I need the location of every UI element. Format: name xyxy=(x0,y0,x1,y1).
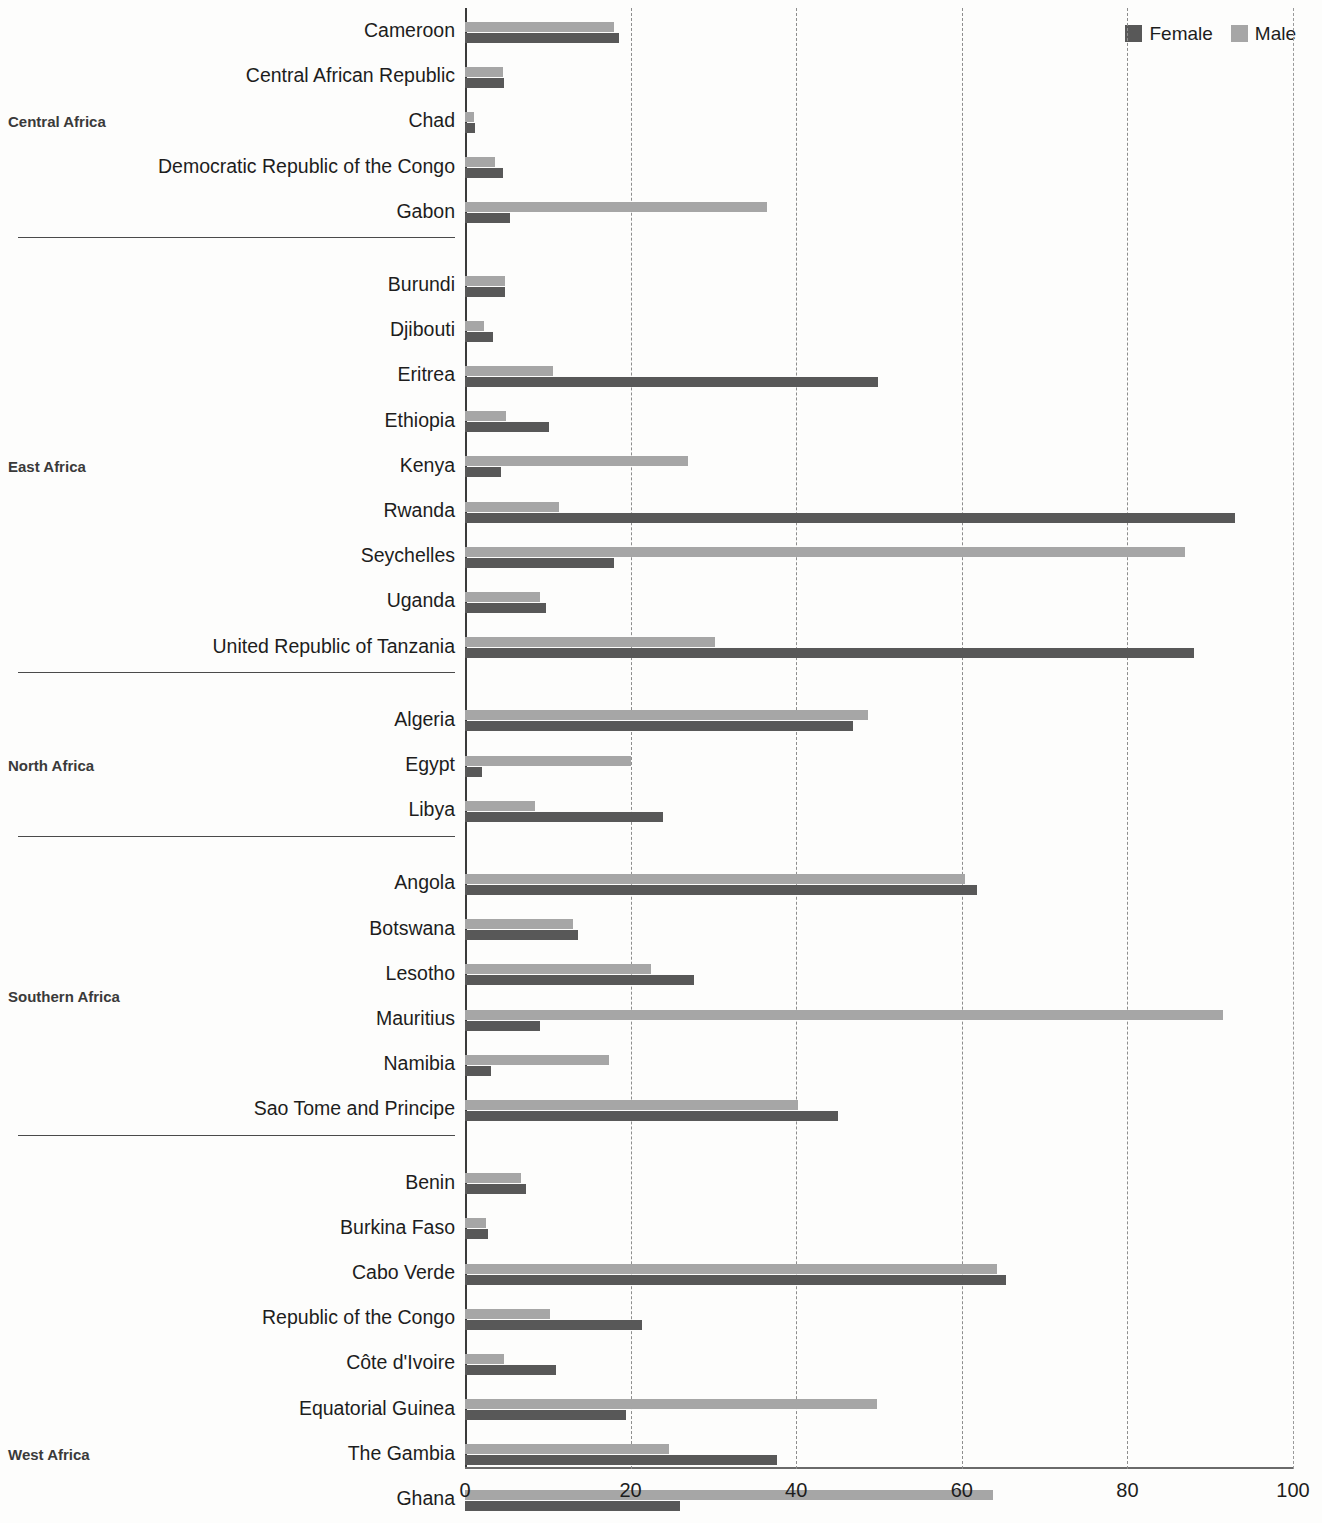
bar-female-burkina-faso xyxy=(465,1229,488,1239)
bar-female-burundi xyxy=(465,287,505,297)
x-axis-line xyxy=(465,1467,1293,1469)
bar-female-central-african-republic xyxy=(465,78,504,88)
category-label-chad: Chad xyxy=(408,109,455,132)
bar-female-botswana xyxy=(465,930,578,940)
bar-male-equatorial-guinea xyxy=(465,1399,877,1409)
bar-male-ghana xyxy=(465,1490,993,1500)
bar-male-seychelles xyxy=(465,547,1185,557)
bar-female-ghana xyxy=(465,1501,680,1511)
bar-male-cameroon xyxy=(465,22,614,32)
x-tick-label-0: 0 xyxy=(459,1479,470,1502)
bar-female-djibouti xyxy=(465,332,493,342)
bar-male-kenya xyxy=(465,456,688,466)
bar-female-egypt xyxy=(465,767,482,777)
bar-male-gabon xyxy=(465,202,767,212)
chart-page: FemaleMale Central AfricaEast AfricaNort… xyxy=(0,0,1322,1523)
bar-female-eritrea xyxy=(465,377,878,387)
category-label-sao-tome-and-principe: Sao Tome and Principe xyxy=(254,1097,455,1120)
bar-male-algeria xyxy=(465,710,868,720)
category-label-ethiopia: Ethiopia xyxy=(385,409,455,432)
category-label-kenya: Kenya xyxy=(400,454,455,477)
bar-female-lesotho xyxy=(465,975,694,985)
bar-male-ethiopia xyxy=(465,411,506,421)
category-label-namibia: Namibia xyxy=(383,1052,455,1075)
category-label-algeria: Algeria xyxy=(394,708,455,731)
x-tick-label-20: 20 xyxy=(619,1479,641,1502)
bar-female-benin xyxy=(465,1184,526,1194)
bar-female-the-gambia xyxy=(465,1455,777,1465)
bar-male-uganda xyxy=(465,592,540,602)
category-label-ghana: Ghana xyxy=(396,1487,455,1510)
category-label-cabo-verde: Cabo Verde xyxy=(352,1261,455,1284)
bar-male-libya xyxy=(465,801,535,811)
category-label-uganda: Uganda xyxy=(387,589,455,612)
bar-female-cameroon xyxy=(465,33,619,43)
category-label-lesotho: Lesotho xyxy=(386,962,455,985)
bar-female-gabon xyxy=(465,213,510,223)
bar-female-algeria xyxy=(465,721,853,731)
bar-male-djibouti xyxy=(465,321,484,331)
category-label-burkina-faso: Burkina Faso xyxy=(340,1216,455,1239)
x-tick-label-80: 80 xyxy=(1116,1479,1138,1502)
bar-female-uganda xyxy=(465,603,546,613)
bar-male-rwanda xyxy=(465,502,559,512)
bar-male-central-african-republic xyxy=(465,67,503,77)
gridline-60 xyxy=(962,8,963,1469)
bar-female-democratic-republic-of-the-congo xyxy=(465,168,503,178)
category-label-cameroon: Cameroon xyxy=(364,19,455,42)
category-label-burundi: Burundi xyxy=(388,273,455,296)
bar-female-ethiopia xyxy=(465,422,549,432)
bar-male-mauritius xyxy=(465,1010,1223,1020)
bar-female-namibia xyxy=(465,1066,491,1076)
category-label-column: CameroonCentral African RepublicChadDemo… xyxy=(0,0,455,1461)
bar-female-republic-of-the-congo xyxy=(465,1320,642,1330)
bar-male-the-gambia xyxy=(465,1444,669,1454)
bar-male-namibia xyxy=(465,1055,609,1065)
bar-female-chad xyxy=(465,123,475,133)
x-tick-label-100: 100 xyxy=(1276,1479,1309,1502)
bar-female-c-te-d-ivoire xyxy=(465,1365,556,1375)
category-label-libya: Libya xyxy=(408,798,455,821)
bar-female-cabo-verde xyxy=(465,1275,1006,1285)
category-label-central-african-republic: Central African Republic xyxy=(246,64,455,87)
category-label-seychelles: Seychelles xyxy=(361,544,455,567)
y-axis-line xyxy=(465,8,467,1469)
bar-male-angola xyxy=(465,874,965,884)
bar-male-egypt xyxy=(465,756,631,766)
category-label-gabon: Gabon xyxy=(396,200,455,223)
category-label-c-te-d-ivoire: Côte d'Ivoire xyxy=(346,1351,455,1374)
bar-female-sao-tome-and-principe xyxy=(465,1111,838,1121)
bar-male-burkina-faso xyxy=(465,1218,486,1228)
bar-male-democratic-republic-of-the-congo xyxy=(465,157,495,167)
category-label-egypt: Egypt xyxy=(405,753,455,776)
bar-male-chad xyxy=(465,112,474,122)
bar-female-equatorial-guinea xyxy=(465,1410,626,1420)
bar-male-lesotho xyxy=(465,964,651,974)
bar-female-united-republic-of-tanzania xyxy=(465,648,1194,658)
bar-male-benin xyxy=(465,1173,521,1183)
category-label-rwanda: Rwanda xyxy=(383,499,455,522)
category-label-mauritius: Mauritius xyxy=(376,1007,455,1030)
category-label-eritrea: Eritrea xyxy=(398,363,455,386)
category-label-democratic-republic-of-the-congo: Democratic Republic of the Congo xyxy=(158,155,455,178)
bar-female-libya xyxy=(465,812,663,822)
bar-female-angola xyxy=(465,885,977,895)
category-label-botswana: Botswana xyxy=(369,917,455,940)
bar-male-botswana xyxy=(465,919,573,929)
bar-female-mauritius xyxy=(465,1021,540,1031)
bar-female-kenya xyxy=(465,467,501,477)
x-tick-label-40: 40 xyxy=(785,1479,807,1502)
category-label-benin: Benin xyxy=(405,1171,455,1194)
gridline-40 xyxy=(796,8,797,1469)
category-label-djibouti: Djibouti xyxy=(390,318,455,341)
plot-area xyxy=(465,8,1293,1469)
gridline-100 xyxy=(1293,8,1294,1469)
bar-female-rwanda xyxy=(465,513,1235,523)
bar-male-burundi xyxy=(465,276,505,286)
bar-male-eritrea xyxy=(465,366,553,376)
bar-male-cabo-verde xyxy=(465,1264,997,1274)
bar-male-sao-tome-and-principe xyxy=(465,1100,798,1110)
category-label-the-gambia: The Gambia xyxy=(348,1442,455,1465)
category-label-angola: Angola xyxy=(394,871,455,894)
gridline-20 xyxy=(631,8,632,1469)
